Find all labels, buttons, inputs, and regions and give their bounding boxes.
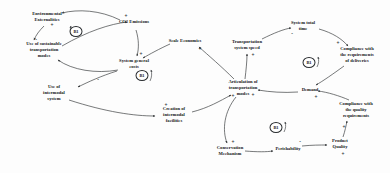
- loop-marker-center: B1: [136, 70, 151, 82]
- node-environmental-externalities: Environmental Externalities: [27, 11, 67, 23]
- polarity-sign-conservation-mechanism: +: [232, 140, 235, 145]
- node-transportation-system-speed: Transportation system speed: [230, 39, 264, 51]
- edge-articulation-to-scale-economies: [199, 47, 234, 79]
- node-conservation-mechanism: Conservation Mechanism: [215, 145, 245, 157]
- edge-system-total-time-to-compliance-deliveries: [319, 29, 348, 46]
- edge-creation-facilities-to-articulation: [192, 95, 231, 112]
- loop-label: B1: [270, 122, 283, 133]
- loop-marker-bottom: B1: [270, 122, 285, 134]
- node-system-general-costs: System general costs: [117, 58, 151, 70]
- polarity-sign-creation-facilities: +: [165, 103, 168, 108]
- polarity-sign-articulation-b: +: [252, 93, 255, 98]
- node-product-quality: Product Quality: [325, 138, 355, 150]
- node-demand: Demand: [295, 87, 325, 93]
- polarity-sign-scale-economies: +: [199, 47, 202, 52]
- polarity-sign-intermodal-use: -: [97, 77, 99, 82]
- polarity-sign-costs-inflow: +: [140, 52, 143, 57]
- edge-co2-to-system-general-costs: [136, 30, 138, 56]
- polarity-sign-system-total-time: -: [291, 31, 293, 36]
- loop-label: B1: [136, 70, 149, 81]
- polarity-sign-speed-inflow: +: [252, 53, 255, 58]
- causal-loop-diagram: Environmental Externalities CO2 Emission…: [0, 0, 390, 173]
- node-compliance-requirements-deliveries: Compliance with the requirements of deli…: [340, 46, 374, 64]
- polarity-sign-environmental-externalities: +: [51, 23, 54, 28]
- polarity-sign-product-quality: +: [342, 152, 345, 157]
- polarity-sign-demand: +: [315, 95, 318, 100]
- edge-scale-economies-to-system-general-costs: [143, 44, 170, 58]
- polarity-sign-sustainable-modes: -: [35, 37, 37, 42]
- edge-articulation-to-conservation: [224, 97, 236, 143]
- node-use-sustainable-transportation-modes: Use of sustainable transportation modes: [24, 41, 64, 59]
- polarity-sign-co2-emissions: +: [125, 14, 128, 19]
- loop-label: B1: [70, 26, 83, 37]
- edge-compliance-deliveries-to-demand: [316, 66, 344, 85]
- polarity-sign-articulation-a: +: [232, 94, 235, 99]
- node-perishability: Perishability: [273, 146, 303, 152]
- loop-marker-top-left: B1: [70, 26, 85, 38]
- loop-marker-right: B1: [303, 57, 318, 69]
- node-co2-emissions: CO2 Emissions: [117, 19, 151, 25]
- edge-co2-to-environmental-externalities: [62, 11, 120, 20]
- edge-system-general-costs-to-sustainable-modes: [58, 60, 118, 72]
- edge-demand-to-articulation: [258, 90, 298, 92]
- loop-label: B1: [303, 57, 316, 68]
- polarity-sign-quality-requirements: +: [343, 125, 346, 130]
- node-scale-economies: Scale Economies: [168, 38, 202, 44]
- edge-perishability-to-product-quality: [302, 145, 327, 146]
- node-compliance-quality-requirements: Compliance with the quality requirements: [339, 101, 373, 119]
- edge-articulation-to-transportation-speed: [245, 54, 247, 79]
- node-creation-intermodal-facilities: Creation of intermodal facilities: [157, 106, 191, 124]
- edge-use-intermodal-system-to-creation-facilities: [69, 100, 155, 116]
- node-use-intermodal-system: Use of intermodal system: [37, 84, 71, 102]
- polarity-sign-compliance-deliveries: +: [337, 41, 340, 46]
- edge-conservation-to-perishability: [245, 151, 273, 152]
- polarity-sign-perishability: -: [299, 139, 301, 144]
